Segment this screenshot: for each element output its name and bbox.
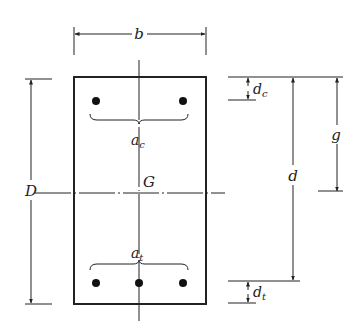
label-G: G bbox=[143, 173, 155, 191]
label-dc: dc bbox=[253, 81, 268, 99]
bar bbox=[179, 97, 187, 105]
depth-dimension-D: D bbox=[24, 79, 52, 304]
label-at: at bbox=[131, 245, 144, 263]
label-g: g bbox=[331, 126, 341, 144]
label-ac: ac bbox=[131, 132, 145, 150]
label-d: d bbox=[288, 167, 298, 185]
beam-section-diagram: b G ac at D dc d bbox=[0, 0, 363, 335]
label-D: D bbox=[24, 182, 37, 200]
bar bbox=[92, 279, 100, 287]
label-b: b bbox=[134, 25, 144, 43]
bar bbox=[179, 279, 187, 287]
width-dimension: b bbox=[74, 25, 206, 55]
right-dimensions: dc d g dt bbox=[228, 77, 343, 303]
bar bbox=[92, 97, 100, 105]
bar bbox=[135, 279, 143, 287]
label-dt: dt bbox=[253, 284, 267, 302]
section-outline bbox=[74, 77, 206, 304]
